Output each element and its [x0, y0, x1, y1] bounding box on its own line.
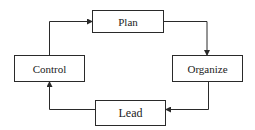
- management-cycle-diagram: Plan Organize Lead Control: [0, 0, 255, 130]
- node-control: Control: [14, 55, 85, 82]
- node-plan-label: Plan: [118, 16, 138, 28]
- edge-organize-to-lead: [166, 82, 209, 110]
- edge-control-to-plan: [50, 22, 93, 56]
- node-lead: Lead: [95, 100, 166, 126]
- node-control-label: Control: [33, 63, 67, 75]
- node-lead-label: Lead: [119, 106, 143, 121]
- node-organize-label: Organize: [187, 63, 227, 75]
- edge-lead-to-control: [50, 82, 96, 110]
- node-organize: Organize: [172, 55, 243, 82]
- edge-plan-to-organize: [164, 22, 207, 56]
- node-plan: Plan: [92, 10, 164, 33]
